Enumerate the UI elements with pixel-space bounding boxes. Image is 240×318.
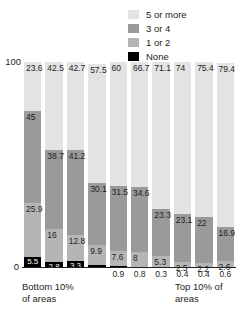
bar-segment-value-three_or_four: 41.2 bbox=[69, 152, 86, 161]
bar-segment-one_or_two[interactable]: 7.6 bbox=[110, 251, 128, 267]
bar-segment-value-three_or_four: 22 bbox=[197, 219, 206, 228]
bar-column[interactable]: 834.666.7 bbox=[131, 62, 149, 268]
bar-segment-five_or_more[interactable]: 66.7 bbox=[131, 62, 149, 187]
category-caption-right: Top 10% of areas bbox=[175, 281, 237, 304]
y-axis-tick-bottom: 0 bbox=[0, 261, 19, 272]
bar-segment-value-five_or_more: 79.4 bbox=[219, 65, 236, 74]
bar-segment-value-five_or_more: 42.7 bbox=[69, 64, 86, 73]
x-axis-line bbox=[22, 267, 236, 268]
bar-column[interactable]: 1.59.930.157.5 bbox=[88, 62, 106, 268]
bar-segment-value-none-below: 0.4 bbox=[171, 270, 195, 279]
bar-segment-one_or_two[interactable]: 9.9 bbox=[88, 245, 106, 265]
bar-segment-five_or_more[interactable]: 60 bbox=[110, 62, 128, 186]
bar-segment-value-one_or_two: 9.9 bbox=[90, 247, 102, 256]
bar-segment-value-none: 5.5 bbox=[24, 257, 42, 266]
bar-segment-five_or_more[interactable]: 57.5 bbox=[88, 64, 106, 182]
bar-segment-five_or_more[interactable]: 74 bbox=[174, 62, 192, 214]
bar-segment-value-none-below: 0.3 bbox=[149, 270, 173, 279]
legend-label-one_or_two: 1 or 2 bbox=[146, 38, 170, 48]
bar-segment-one_or_two[interactable]: 2.6 bbox=[217, 261, 235, 266]
bar-segment-value-five_or_more: 23.6 bbox=[26, 64, 43, 73]
bar-column[interactable]: 2.616.979.4 bbox=[217, 62, 235, 268]
bar-segment-three_or_four[interactable]: 30.1 bbox=[88, 183, 106, 245]
bar-column[interactable]: 7.631.560 bbox=[110, 62, 128, 268]
bar-segment-value-none-below: 0.6 bbox=[214, 270, 238, 279]
bar-column[interactable]: 2.523.174 bbox=[174, 62, 192, 268]
bar-segment-five_or_more[interactable]: 42.5 bbox=[45, 62, 63, 150]
bar-segment-value-one_or_two: 12.8 bbox=[69, 237, 86, 246]
bar-segment-value-one_or_two: 25.9 bbox=[26, 205, 43, 214]
bar-segment-five_or_more[interactable]: 79.4 bbox=[217, 63, 235, 227]
bar-segment-value-five_or_more: 71.1 bbox=[154, 64, 171, 73]
bar-segment-three_or_four[interactable]: 23.3 bbox=[152, 209, 170, 257]
bar-segment-value-three_or_four: 34.6 bbox=[133, 189, 150, 198]
bar-segment-value-five_or_more: 66.7 bbox=[133, 64, 150, 73]
bar-segment-value-one_or_two: 16 bbox=[47, 231, 56, 240]
bar-segment-value-none: 3.3 bbox=[67, 261, 85, 270]
bar-segment-one_or_two[interactable]: 8 bbox=[131, 252, 149, 267]
bar-segment-five_or_more[interactable]: 71.1 bbox=[152, 62, 170, 208]
legend-item-five_or_more[interactable]: 5 or more bbox=[128, 8, 236, 21]
bar-segment-value-three_or_four: 23.1 bbox=[176, 216, 193, 225]
bar-segment-one_or_two[interactable]: 5.3 bbox=[152, 256, 170, 267]
bar-segment-three_or_four[interactable]: 45 bbox=[24, 111, 42, 204]
chart-legend: 5 or more3 or 41 or 2None bbox=[128, 8, 236, 64]
bar-segment-value-three_or_four: 23.3 bbox=[154, 211, 171, 220]
bar-column[interactable]: 2.22275.4 bbox=[195, 62, 213, 268]
legend-swatch-none bbox=[128, 52, 139, 61]
bar-segment-value-three_or_four: 31.5 bbox=[112, 188, 129, 197]
bar-segment-five_or_more[interactable]: 42.7 bbox=[67, 62, 85, 150]
bar-column[interactable]: 5.323.371.1 bbox=[152, 62, 170, 268]
legend-swatch-one_or_two bbox=[128, 38, 139, 47]
legend-swatch-five_or_more bbox=[128, 10, 139, 19]
bar-segment-value-none-below: 0.8 bbox=[128, 270, 152, 279]
bar-segment-value-five_or_more: 57.5 bbox=[90, 66, 107, 75]
bar-column[interactable]: 2.81638.742.5 bbox=[45, 62, 63, 268]
bar-segment-three_or_four[interactable]: 34.6 bbox=[131, 187, 149, 252]
legend-swatch-three_or_four bbox=[128, 24, 139, 33]
bar-segment-value-five_or_more: 60 bbox=[112, 64, 121, 73]
bar-segment-three_or_four[interactable]: 38.7 bbox=[45, 150, 63, 230]
legend-item-three_or_four[interactable]: 3 or 4 bbox=[128, 22, 236, 35]
legend-label-none: None bbox=[146, 52, 169, 62]
bar-segment-three_or_four[interactable]: 16.9 bbox=[217, 227, 235, 262]
plot-area: 5.525.94523.62.81638.742.53.312.841.242.… bbox=[22, 62, 236, 268]
bar-segment-one_or_two[interactable]: 16 bbox=[45, 229, 63, 262]
bar-segment-value-none-below: 0.4 bbox=[192, 270, 216, 279]
bar-segment-one_or_two[interactable]: 25.9 bbox=[24, 203, 42, 256]
bar-segment-value-three_or_four: 38.7 bbox=[47, 152, 64, 161]
bar-segment-three_or_four[interactable]: 22 bbox=[195, 217, 213, 262]
y-axis-tick-top: 100 bbox=[0, 56, 21, 67]
bar-segment-value-five_or_more: 42.5 bbox=[47, 64, 64, 73]
legend-item-one_or_two[interactable]: 1 or 2 bbox=[128, 36, 236, 49]
bar-column[interactable]: 5.525.94523.6 bbox=[24, 62, 42, 268]
bar-segment-five_or_more[interactable]: 23.6 bbox=[24, 62, 42, 111]
stacked-bar-chart: 5 or more3 or 41 or 2None 100 0 5.525.94… bbox=[0, 0, 240, 318]
bar-segment-three_or_four[interactable]: 31.5 bbox=[110, 186, 128, 251]
category-caption-left: Bottom 10% of areas bbox=[22, 281, 84, 304]
legend-label-five_or_more: 5 or more bbox=[146, 10, 187, 20]
bar-segment-value-none-below: 0.9 bbox=[107, 270, 131, 279]
bar-column[interactable]: 3.312.841.242.7 bbox=[67, 62, 85, 268]
bar-segment-value-three_or_four: 30.1 bbox=[90, 185, 107, 194]
bar-segment-value-one_or_two: 7.6 bbox=[112, 253, 124, 262]
bar-segment-value-three_or_four: 16.9 bbox=[219, 229, 236, 238]
bar-segment-three_or_four[interactable]: 41.2 bbox=[67, 150, 85, 235]
bar-segment-five_or_more[interactable]: 75.4 bbox=[195, 62, 213, 217]
bar-segment-value-five_or_more: 75.4 bbox=[197, 64, 214, 73]
bar-segment-value-five_or_more: 74 bbox=[176, 64, 185, 73]
legend-label-three_or_four: 3 or 4 bbox=[146, 24, 170, 34]
bar-segment-value-one_or_two: 8 bbox=[133, 254, 138, 263]
bar-segment-one_or_two[interactable]: 12.8 bbox=[67, 235, 85, 261]
bar-segment-three_or_four[interactable]: 23.1 bbox=[174, 214, 192, 262]
bar-segment-value-three_or_four: 45 bbox=[26, 113, 35, 122]
